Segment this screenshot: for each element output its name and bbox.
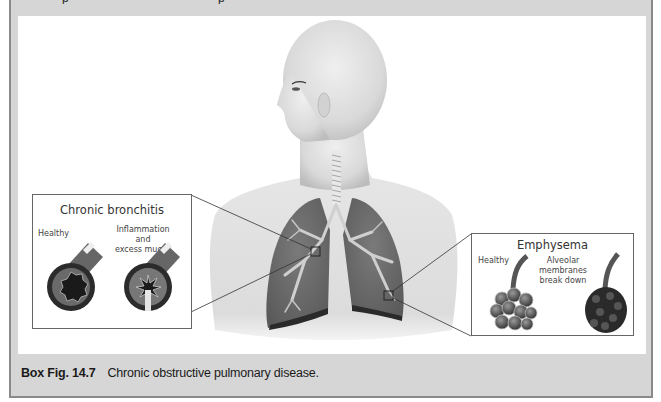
healthy-bronchus-icon xyxy=(47,242,103,311)
healthy-alveoli-icon xyxy=(490,256,537,330)
damaged-alveoli-icon xyxy=(585,254,627,333)
cropped-text-above: p p xyxy=(0,0,661,4)
chronic-bronchitis-inset: Chronic bronchitis Healthy Inflammation … xyxy=(32,194,192,329)
bronchus-cross-sections xyxy=(33,195,193,330)
head-illustration xyxy=(277,20,387,142)
alveoli-illustrations xyxy=(472,234,635,337)
caption-text: Chronic obstructive pulmonary disease. xyxy=(108,366,319,380)
cropped-glyph: p xyxy=(62,0,69,4)
cropped-glyph: p xyxy=(218,0,225,4)
caption-label: Box Fig. 14.7 xyxy=(21,366,96,380)
figure-caption: Box Fig. 14.7Chronic obstructive pulmona… xyxy=(21,366,319,380)
figure-panel: Chronic bronchitis Healthy Inflammation … xyxy=(18,16,646,354)
emphysema-inset: Emphysema Healthy Alveolar membranes bre… xyxy=(471,233,634,336)
inflamed-bronchus-icon xyxy=(124,242,180,311)
trachea-illustration xyxy=(332,150,341,205)
